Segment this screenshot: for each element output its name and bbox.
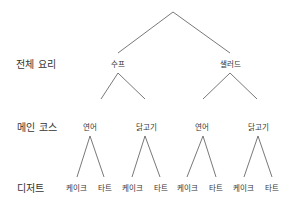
row-label-full-course: 전체 요리 (16, 56, 55, 71)
edge-root (118, 12, 230, 53)
node-chicken: 닭고기 (136, 121, 157, 132)
edge-salad-chicken (244, 136, 272, 177)
node-cake: 케이크 (122, 182, 143, 193)
node-cake: 케이크 (66, 182, 87, 193)
node-chicken: 닭고기 (248, 121, 269, 132)
edge-soup-salmon (77, 136, 104, 177)
node-salmon: 연어 (83, 121, 97, 132)
edge-salad-salmon (187, 136, 216, 177)
node-tart: 타트 (154, 182, 168, 193)
node-salad: 샐러드 (220, 58, 241, 69)
node-tart: 타트 (209, 182, 223, 193)
edge-salad (203, 73, 257, 99)
tree-edges (0, 0, 295, 203)
node-tart: 타트 (98, 182, 112, 193)
node-cake: 케이크 (233, 182, 254, 193)
edge-soup (101, 73, 145, 99)
edge-soup-chicken (132, 136, 160, 177)
row-label-main-course: 메인 코스 (17, 119, 56, 134)
node-soup: 수프 (111, 58, 125, 69)
row-label-dessert: 디저트 (17, 180, 44, 195)
node-salmon: 연어 (195, 121, 209, 132)
node-tart: 타트 (265, 182, 279, 193)
node-cake: 케이크 (177, 182, 198, 193)
